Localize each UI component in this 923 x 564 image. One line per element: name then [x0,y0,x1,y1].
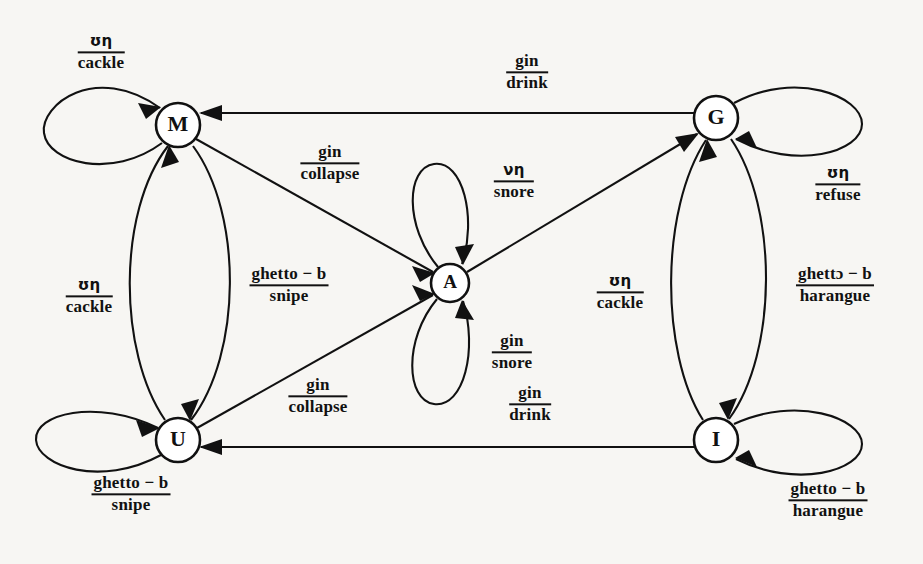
edge-label-g-i-left-denominator: cackle [597,293,644,312]
state-diagram-canvas: M G A U I ʊη cackle gin collapse ʊη cack… [0,0,923,564]
edge-label-m-to-a-denominator: collapse [300,164,359,183]
edge-label-u-self-numerator: ghetto − b [92,474,171,495]
edge-label-i-to-u-numerator: gin [509,384,551,405]
edge-label-m-u-right: ghetto − b snipe [250,265,329,304]
node-G[interactable]: G [694,96,738,140]
edge-label-m-to-a-numerator: gin [300,143,359,164]
edge-label-m-to-a: gin collapse [300,143,359,182]
edge-label-m-self: ʊη cackle [78,34,125,71]
node-M-label: M [168,111,189,136]
edge-label-a-self-bottom: gin snore [492,332,532,371]
node-M[interactable]: M [156,103,200,147]
edge-label-a-self-bottom-numerator: gin [492,332,532,353]
edge-label-i-self: ghetto − b harangue [789,480,868,519]
edge-m-self-loop [44,88,162,164]
edge-a-to-g-line [467,134,697,272]
edge-label-i-to-u-denominator: drink [509,405,551,424]
arrowhead-u-to-m [161,145,179,168]
edge-label-g-i-right-numerator: ghettɔ − b [796,265,874,286]
edge-g-to-i-arc [729,139,766,419]
edge-g-to-m-line [201,99,706,113]
edge-m-to-u-arc [191,146,230,420]
node-U[interactable]: U [156,418,200,462]
edge-label-g-to-m: gin drink [506,52,548,91]
node-G-label: G [707,104,724,129]
node-A-label: A [443,271,457,292]
edge-label-g-i-right: ghettɔ − b harangue [796,265,874,304]
edge-label-u-self: ghetto − b snipe [92,474,171,513]
arrowhead-a-to-g [675,133,699,152]
edge-label-a-self-bottom-denominator: snore [492,353,532,372]
edge-label-g-i-left: ʊη cackle [597,274,644,311]
arrowhead-g-to-m [199,105,222,121]
edge-label-m-u-right-numerator: ghetto − b [250,265,329,286]
edge-label-m-self-denominator: cackle [78,53,125,72]
node-I[interactable]: I [694,418,738,462]
edge-label-a-self-top-numerator: νη [494,163,534,182]
arrowhead-i-to-u [199,439,222,455]
edge-u-to-m-arc [130,146,168,420]
edge-label-i-self-denominator: harangue [789,501,868,520]
edge-label-g-self-numerator: ʊη [815,166,860,185]
arrowhead-a-self-top [455,244,474,265]
edge-label-u-to-a: gin collapse [288,376,347,415]
edge-label-u-to-a-numerator: gin [288,376,347,397]
edge-u-self-loop [36,412,161,472]
edge-label-m-u-left-denominator: cackle [66,297,113,316]
edge-label-u-self-denominator: snipe [92,495,171,514]
edge-label-g-i-right-denominator: harangue [796,286,874,305]
arrowhead-g-self-loop [735,131,757,148]
edge-label-g-self: ʊη refuse [815,166,860,203]
edge-i-to-g-arc [671,140,706,420]
node-U-label: U [170,426,186,451]
edge-i-to-u-line [201,447,706,459]
edge-label-i-self-numerator: ghetto − b [789,480,868,501]
edge-label-a-self-top: νη snore [494,163,534,200]
edge-label-u-to-a-denominator: collapse [288,397,347,416]
edge-label-m-u-left: ʊη cackle [66,278,113,315]
edge-label-g-to-m-numerator: gin [506,52,548,73]
edge-label-g-i-left-numerator: ʊη [597,274,644,293]
edge-label-m-self-numerator: ʊη [78,34,125,53]
node-A[interactable]: A [431,264,469,302]
edge-label-i-to-u: gin drink [509,384,551,423]
arrowhead-i-to-g [699,139,717,162]
node-I-label: I [712,426,721,451]
arrowhead-g-to-i [719,398,737,420]
edge-label-g-self-denominator: refuse [815,185,860,204]
edge-label-a-self-top-denominator: snore [494,182,534,201]
edge-label-m-u-left-numerator: ʊη [66,278,113,297]
edge-label-g-to-m-denominator: drink [506,73,548,92]
edge-label-m-u-right-denominator: snipe [250,286,329,305]
